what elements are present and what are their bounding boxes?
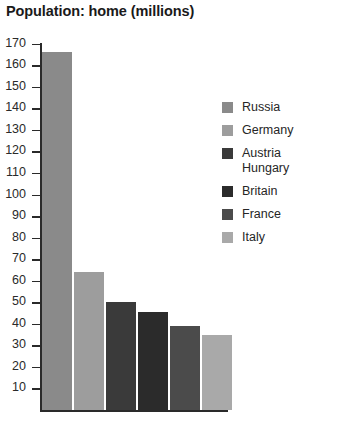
legend-item-label: France	[242, 207, 281, 222]
y-axis-tick-label: 10	[12, 380, 26, 395]
y-axis-tick-mark	[32, 44, 40, 46]
x-axis-line	[40, 410, 228, 412]
y-axis-tick-mark	[32, 151, 40, 153]
y-axis-tick-mark	[32, 87, 40, 89]
y-axis-tick-mark	[32, 195, 40, 197]
y-axis-tick-mark	[32, 238, 40, 240]
bar	[170, 326, 200, 410]
y-axis-tick-mark	[32, 324, 40, 326]
y-axis-tick-mark	[32, 259, 40, 261]
y-axis-tick-label: 140	[5, 100, 26, 115]
y-axis-tick-label: 30	[12, 337, 26, 352]
y-axis-tick-mark	[32, 216, 40, 218]
y-axis-tick-mark	[32, 65, 40, 67]
legend-item: Germany	[222, 123, 338, 138]
y-axis-tick-mark	[32, 281, 40, 283]
y-axis-tick-mark	[32, 345, 40, 347]
legend-item-label: Britain	[242, 184, 277, 199]
y-axis-tick-label: 100	[5, 187, 26, 202]
legend-swatch-icon	[222, 148, 233, 159]
y-axis-tick-label: 50	[12, 294, 26, 309]
y-axis-tick-mark	[32, 367, 40, 369]
y-axis-tick-label: 80	[12, 230, 26, 245]
y-axis-tick-label: 70	[12, 251, 26, 266]
legend-swatch-icon	[222, 232, 233, 243]
y-axis-tick-mark	[32, 388, 40, 390]
y-axis-tick-label: 40	[12, 316, 26, 331]
legend-item: Britain	[222, 184, 338, 199]
legend-item-label: Austria Hungary	[242, 146, 289, 176]
y-axis-tick-label: 60	[12, 273, 26, 288]
bar	[42, 52, 72, 410]
y-axis-tick-label: 160	[5, 57, 26, 72]
legend-swatch-icon	[222, 102, 233, 113]
legend-swatch-icon	[222, 186, 233, 197]
chart-legend: RussiaGermanyAustria HungaryBritainFranc…	[222, 100, 338, 253]
y-axis-tick-label: 90	[12, 208, 26, 223]
y-axis-tick-label: 20	[12, 359, 26, 374]
legend-item: Italy	[222, 230, 338, 245]
y-axis-tick-label: 150	[5, 79, 26, 94]
bar	[74, 272, 104, 410]
legend-item: Austria Hungary	[222, 146, 338, 176]
legend-item-label: Germany	[242, 123, 293, 138]
y-axis-tick-label: 120	[5, 143, 26, 158]
y-axis-tick-mark	[32, 130, 40, 132]
legend-item: Russia	[222, 100, 338, 115]
legend-item-label: Russia	[242, 100, 280, 115]
legend-swatch-icon	[222, 209, 233, 220]
bar	[202, 335, 232, 410]
y-axis-tick-mark	[32, 108, 40, 110]
bar	[138, 312, 168, 410]
legend-item: France	[222, 207, 338, 222]
legend-swatch-icon	[222, 125, 233, 136]
y-axis-tick-label: 130	[5, 122, 26, 137]
bar-chart: Population: home (millions) 170160150140…	[0, 0, 338, 421]
legend-item-label: Italy	[242, 230, 265, 245]
y-axis-tick-label: 170	[5, 36, 26, 51]
y-axis-tick-mark	[32, 302, 40, 304]
bar	[106, 302, 136, 410]
y-axis-tick-label: 110	[6, 165, 26, 180]
y-axis-tick-mark	[32, 173, 40, 175]
